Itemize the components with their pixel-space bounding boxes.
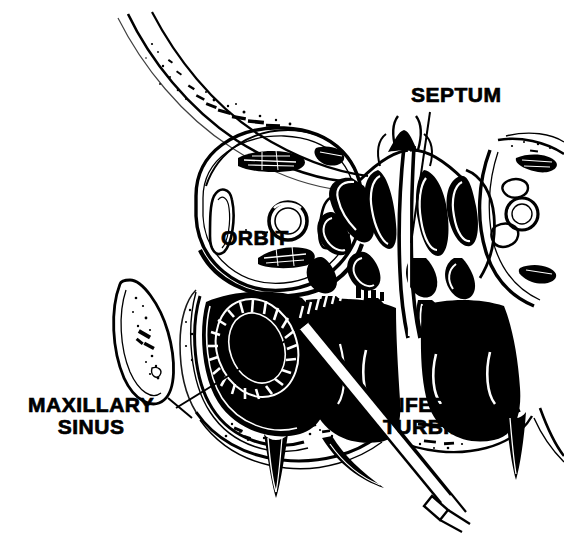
label-orbit: ORBIT	[221, 227, 289, 249]
label-septum: SEPTUM	[411, 84, 502, 106]
label-inferior-turbinate-line1: INFERIOR	[383, 393, 487, 416]
label-inferior-turbinate-line2: TURBINATE	[383, 416, 507, 438]
label-maxillary-sinus-line2: SINUS	[28, 416, 154, 438]
label-maxillary-sinus: MAXILLARYSINUS	[28, 394, 154, 438]
label-inferior-turbinate: INFERIORTURBINATE	[383, 394, 507, 438]
label-maxillary-sinus-line1: MAXILLARY	[28, 393, 154, 416]
anatomical-figure: SEPTUM ORBIT MAXILLARYSINUS INFERIORTURB…	[0, 0, 564, 538]
anatomy-illustration	[0, 0, 564, 538]
